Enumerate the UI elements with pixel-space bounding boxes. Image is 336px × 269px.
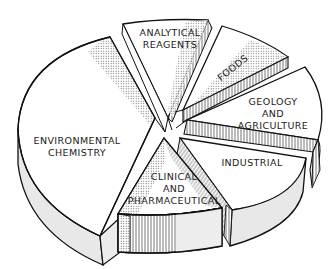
label-environmental-chemistry: ENVIRONMENTAL CHEMISTRY	[22, 135, 132, 159]
label-geology-agriculture: GEOLOGY AND AGRICULTURE	[228, 96, 318, 132]
label-analytical-reagents: ANALYTICAL REAGENTS	[132, 27, 208, 51]
label-industrial: INDUSTRIAL	[212, 157, 292, 169]
label-clinical-pharmaceutical: CLINICAL AND PHARMACEUTICAL	[124, 171, 224, 207]
